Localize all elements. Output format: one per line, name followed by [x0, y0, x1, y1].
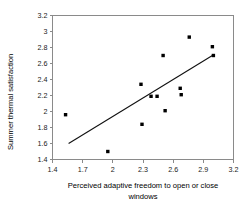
- scatter-plot-figure: 1.41.61.822.22.42.62.833.2 1.41.722.32.6…: [0, 0, 247, 207]
- svg-text:windows: windows: [127, 192, 157, 201]
- x-tick-label: 2.6: [168, 165, 178, 174]
- y-axis-title: Summer thermal satisfaction: [6, 54, 15, 150]
- x-tick-label: 1.7: [78, 165, 88, 174]
- data-point-marker: [163, 109, 166, 112]
- y-tick-label: 2: [44, 107, 48, 116]
- data-point-marker: [155, 95, 158, 98]
- data-point-marker: [180, 93, 183, 96]
- x-axis-ticks: 1.41.722.32.62.93.2: [48, 160, 239, 174]
- trend-line-segment: [69, 56, 213, 144]
- x-tick-label: 2: [111, 165, 115, 174]
- y-tick-label: 3.2: [38, 11, 48, 20]
- y-tick-label: 3: [44, 27, 48, 36]
- plot-frame: [53, 16, 234, 160]
- y-tick-label: 1.4: [38, 155, 48, 164]
- data-point-marker: [179, 87, 182, 90]
- y-tick-label: 2.2: [38, 91, 48, 100]
- data-point-marker: [188, 35, 191, 38]
- x-tick-label: 2.9: [198, 165, 208, 174]
- data-point-series: [64, 35, 215, 153]
- data-point-marker: [139, 83, 142, 86]
- data-point-marker: [161, 54, 164, 57]
- data-point-marker: [106, 150, 109, 153]
- chart-canvas: 1.41.61.822.22.42.62.833.2 1.41.722.32.6…: [0, 0, 247, 207]
- data-point-marker: [212, 54, 215, 57]
- trend-line: [69, 56, 213, 144]
- data-point-marker: [149, 95, 152, 98]
- x-tick-label: 1.4: [48, 165, 58, 174]
- x-tick-label: 2.3: [138, 165, 148, 174]
- svg-text:Perceived adaptive freedom to: Perceived adaptive freedom to open or cl…: [68, 181, 219, 190]
- x-axis-title: Perceived adaptive freedom to open or cl…: [68, 181, 219, 201]
- y-tick-label: 2.4: [38, 75, 48, 84]
- y-axis-ticks: 1.41.61.822.22.42.62.833.2: [38, 11, 53, 164]
- y-tick-label: 1.6: [38, 139, 48, 148]
- y-tick-label: 2.8: [38, 43, 48, 52]
- data-point-marker: [211, 45, 214, 48]
- data-point-marker: [64, 113, 67, 116]
- y-tick-label: 1.8: [38, 123, 48, 132]
- y-tick-label: 2.6: [38, 59, 48, 68]
- svg-text:Summer thermal satisfaction: Summer thermal satisfaction: [6, 54, 15, 150]
- data-point-marker: [140, 123, 143, 126]
- x-tick-label: 3.2: [229, 165, 239, 174]
